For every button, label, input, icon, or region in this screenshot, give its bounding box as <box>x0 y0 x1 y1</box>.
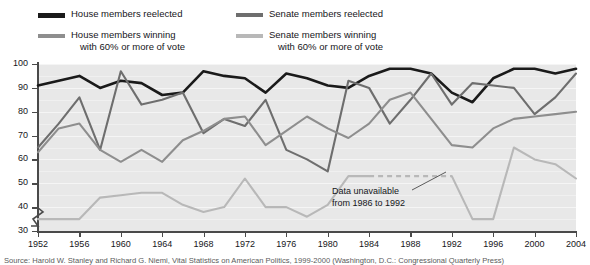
annotation-data-unavailable: Data unavailable from 1986 to 1992 <box>332 186 405 209</box>
chart-series-layer <box>0 0 590 265</box>
series-line-senate-members-winning-with-60-or-more-o <box>452 148 576 220</box>
source-caption: Source: Harold W. Stanley and Richard G.… <box>4 256 588 265</box>
chart-figure: House members reelected Senate members r… <box>0 0 590 265</box>
annotation-leader-line <box>412 172 446 190</box>
series-line-senate-members-winning-with-60-or-more-o <box>38 176 369 219</box>
series-line-house-members-winning-with-60-or-more-of <box>38 93 576 162</box>
series-line-senate-members-reelected <box>38 71 576 171</box>
